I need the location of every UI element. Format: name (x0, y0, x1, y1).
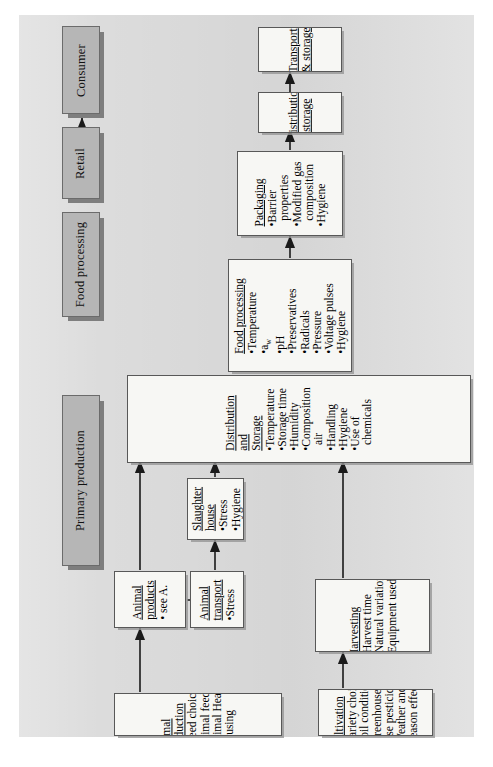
box-title-line: production (174, 703, 186, 736)
box-animal-transport-content: Animal transport •Stress (198, 579, 237, 620)
stage-box-primary-production[interactable]: Primary production (62, 395, 100, 566)
box-bullet: •Composition (301, 387, 313, 450)
box-title-line: & storage (300, 27, 312, 72)
box-bullet: •Temperature (246, 291, 258, 353)
box-bullet: •Hygiene (335, 310, 347, 353)
box-bullet: •Hygiene (337, 408, 349, 451)
box-animal-products[interactable]: Animal products • see A. (114, 571, 186, 628)
stage-label-food-processing: Food processing (74, 222, 89, 307)
box-bullet: •Use pesticides (382, 689, 394, 736)
box-bullet: •Housing (223, 709, 235, 736)
box-bullet: •Handling (325, 404, 337, 451)
box-cultivation-content: Cultivation •Variety choice •Soil condit… (332, 689, 418, 736)
box-bullet: composition (303, 163, 315, 226)
subscript-w: w (265, 338, 274, 344)
box-bullet: •Equipment used (385, 579, 397, 652)
box-bullet: •Natural variation (373, 579, 385, 652)
box-bullet: •Pressure (311, 310, 323, 353)
box-animal-production-content: Animal production •Breed choice •Animal … (160, 693, 235, 736)
box-bullet: •Hygiene (229, 488, 241, 531)
box-title-line: transport (211, 579, 223, 620)
box-animal-production[interactable]: Animal production •Breed choice •Animal … (114, 693, 282, 736)
box-bullet: air (313, 433, 325, 451)
box-title-line: Animal (131, 585, 143, 620)
box-packaging[interactable]: Packaging •Barrier properties •Modified … (237, 151, 343, 236)
box-title-line: Cultivation (332, 696, 344, 736)
box-title-line: house (203, 504, 215, 531)
box-transport-storage-content: Transport & storage (287, 27, 313, 72)
box-harvesting-content: Harvesting •Harvest time •Natural variat… (348, 579, 398, 652)
box-slaughter-house-content: Slaughter house •Stress •Hygiene (190, 487, 241, 531)
box-title-line: Food processing (233, 278, 245, 354)
box-distribution-storage-2-content: Distribution &storage (287, 92, 313, 133)
box-bullet: •Breed choice (187, 693, 199, 736)
box-bullet: •Variety choice (346, 689, 358, 736)
box-bullet: •Stress (217, 500, 229, 532)
box-bullet: •Harvest time (361, 594, 373, 652)
box-transport-storage[interactable]: Transport & storage (258, 27, 342, 72)
box-bullet: •Humidity (288, 403, 300, 451)
box-title-line: Animal (160, 718, 172, 736)
box-bullet: •Modified gas (291, 161, 303, 226)
box-title-line: and (238, 434, 250, 451)
box-bullet: •Use of (349, 416, 361, 450)
box-bullet: •Voltage pulses (323, 283, 335, 354)
box-title-line: Animal (198, 585, 210, 620)
box-distribution-storage-2[interactable]: Distribution &storage (258, 92, 342, 133)
box-distribution-and-storage[interactable]: Distribution and Storage •Temperature •S… (127, 375, 471, 463)
box-distribution-and-storage-content: Distribution and Storage •Temperature •S… (224, 387, 373, 450)
box-bullet: •Soil condition (358, 689, 370, 736)
box-packaging-content: Packaging •Barrier properties •Modified … (253, 161, 327, 226)
box-title-line: Distribution (287, 92, 299, 133)
box-animal-products-content: Animal products • see A. (131, 580, 170, 620)
box-bullet: •Storage time (276, 388, 288, 450)
box-bullet: •Animal Health (211, 693, 223, 736)
box-bullet: •Greenhouse c. (370, 689, 382, 736)
stage-box-retail[interactable]: Retail (62, 127, 100, 199)
box-food-processing-detail-content: Food processing •Temperature •aw •pH •Pr… (233, 278, 347, 354)
box-bullet: •Radicals (298, 310, 310, 354)
stage-box-food-processing[interactable]: Food processing (62, 212, 100, 317)
stage-label-consumer: Consumer (74, 44, 89, 97)
box-bullet: •Barrier (266, 189, 278, 226)
box-bullet: chemicals (361, 399, 373, 451)
box-bullet: properties (278, 174, 290, 226)
box-harvesting[interactable]: Harvesting •Harvest time •Natural variat… (315, 579, 430, 652)
box-food-processing-detail[interactable]: Food processing •Temperature •aw •pH •Pr… (228, 259, 352, 372)
box-bullet-aw: •aw (258, 338, 274, 353)
box-title-line: Harvesting (348, 606, 360, 652)
box-title-line: &storage (300, 98, 312, 133)
box-bullet: •Hygiene (315, 183, 327, 226)
box-cultivation[interactable]: Cultivation •Variety choice •Soil condit… (318, 689, 433, 736)
box-title-line: Distribution (224, 395, 236, 451)
box-slaughter-house[interactable]: Slaughter house •Stress •Hygiene (187, 478, 244, 540)
box-bullet: •Stress (224, 588, 236, 620)
box-title-line: Packaging (253, 178, 265, 226)
box-title-line: products (144, 580, 156, 620)
box-bullet: •Weather and (394, 689, 406, 736)
box-title-line: Storage (251, 416, 263, 451)
box-bullet: • see A. (157, 584, 169, 619)
box-bullet: season effects (406, 689, 418, 736)
stage-label-primary-production: Primary production (74, 430, 89, 531)
box-bullet: •pH (274, 335, 286, 353)
stage-label-retail: Retail (74, 147, 89, 178)
box-bullet: •Temperature (264, 389, 276, 451)
stage-box-consumer[interactable]: Consumer (62, 26, 100, 114)
box-title-line: Transport (287, 28, 299, 72)
box-title-line: Slaughter (190, 487, 202, 531)
box-bullet: •Preservatives (286, 288, 298, 353)
box-animal-transport[interactable]: Animal transport •Stress (190, 571, 244, 628)
box-bullet: •Animal feeding (199, 693, 211, 736)
diagram-canvas: Consumer Retail Food processing Primary … (0, 0, 493, 767)
